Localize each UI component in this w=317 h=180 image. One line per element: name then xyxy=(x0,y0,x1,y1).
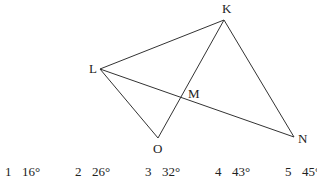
segment-ok xyxy=(158,20,224,138)
geometry-figure: K L M O N xyxy=(0,0,317,155)
choice-number: 1 xyxy=(5,164,22,180)
choice-number: 2 xyxy=(75,164,92,180)
vertex-label-n: N xyxy=(298,131,308,146)
choice-3[interactable]: 332° xyxy=(145,164,180,180)
segment-kn xyxy=(224,20,294,137)
choice-value: 26° xyxy=(92,164,110,179)
choice-value: 16° xyxy=(22,164,40,179)
vertex-label-l: L xyxy=(89,61,97,76)
vertex-label-m: M xyxy=(188,86,200,101)
choice-5[interactable]: 545° xyxy=(285,164,317,180)
choice-value: 45° xyxy=(302,164,317,179)
choice-2[interactable]: 226° xyxy=(75,164,110,180)
segment-lk xyxy=(100,20,224,69)
answer-choices: 116° 226° 332° 443° 545° xyxy=(0,164,317,180)
choice-value: 43° xyxy=(232,164,250,179)
vertex-label-k: K xyxy=(222,1,232,16)
choice-number: 5 xyxy=(285,164,302,180)
choice-4[interactable]: 443° xyxy=(215,164,250,180)
vertex-label-o: O xyxy=(153,141,162,155)
figure-segments xyxy=(100,20,294,138)
choice-number: 3 xyxy=(145,164,162,180)
choice-number: 4 xyxy=(215,164,232,180)
choice-value: 32° xyxy=(162,164,180,179)
choice-1[interactable]: 116° xyxy=(5,164,40,180)
